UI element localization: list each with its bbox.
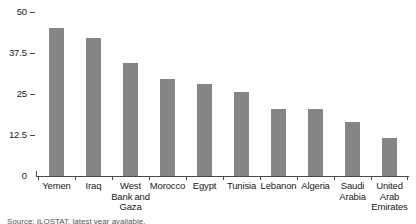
y-axis-tick: 25	[17, 88, 38, 100]
x-axis-tick-mark	[75, 176, 76, 180]
bar[interactable]	[271, 109, 286, 176]
x-axis-tick-mark	[334, 176, 335, 180]
y-axis-tick-label: 0	[22, 171, 27, 181]
y-axis-tick-label: 25	[17, 89, 27, 99]
bar-slot	[75, 12, 112, 176]
bar-slot	[371, 12, 408, 176]
x-axis-tick-mark	[297, 176, 298, 180]
x-axis-tick-mark	[407, 176, 408, 180]
source-note: Source: ILOSTAT, latest year available.	[7, 217, 412, 224]
bar-slot	[186, 12, 223, 176]
x-axis-category-label-line: Gaza	[106, 202, 155, 213]
x-axis-tick-mark	[38, 176, 39, 180]
y-axis-tick-label: 12.5	[9, 130, 27, 140]
x-axis-tick-mark	[223, 176, 224, 180]
y-axis-tick: 12.5	[9, 129, 38, 141]
y-axis-tick: 37.5	[9, 47, 38, 59]
bar-chart-figure: 012.52537.550 YemenIraqWestBank andGazaM…	[0, 0, 416, 224]
plot-area	[38, 12, 408, 176]
bar[interactable]	[123, 63, 138, 176]
y-axis-tick-mark	[30, 12, 35, 13]
bar[interactable]	[86, 38, 101, 176]
bar[interactable]	[345, 122, 360, 176]
y-axis-tick-mark	[30, 53, 35, 54]
y-axis-tick-mark	[30, 135, 35, 136]
bar[interactable]	[197, 84, 212, 176]
y-axis-tick: 50	[17, 6, 38, 18]
bar[interactable]	[234, 92, 249, 176]
y-axis-tick-label: 37.5	[9, 48, 27, 58]
bar-slot	[38, 12, 75, 176]
bar-slot	[297, 12, 334, 176]
x-axis-category-label-line: Emirates	[365, 202, 414, 213]
y-axis-tick-label: 50	[17, 7, 27, 17]
x-axis-tick-mark	[112, 176, 113, 180]
bar[interactable]	[308, 109, 323, 176]
bar-slot	[112, 12, 149, 176]
bar-slot	[149, 12, 186, 176]
bar-slot	[223, 12, 260, 176]
x-axis-category-label-line: United	[365, 181, 414, 192]
bar-slot	[260, 12, 297, 176]
x-axis-category-label: UnitedArabEmirates	[365, 181, 414, 213]
bar[interactable]	[382, 138, 397, 176]
x-axis-tick-mark	[371, 176, 372, 180]
bar[interactable]	[49, 28, 64, 176]
bar-slot	[334, 12, 371, 176]
x-axis-tick-mark	[186, 176, 187, 180]
bar[interactable]	[160, 79, 175, 176]
y-axis-tick-mark	[30, 94, 35, 95]
